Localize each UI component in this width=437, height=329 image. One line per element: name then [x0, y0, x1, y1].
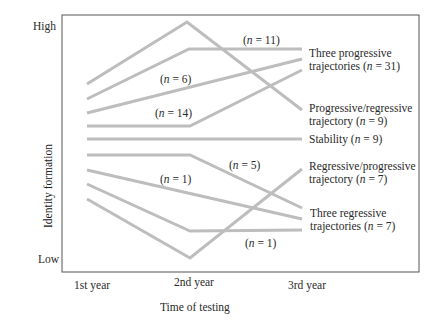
group-label-line: trajectory (n = 7) [309, 173, 416, 186]
group-label-line: Progressive/regressive [309, 102, 412, 115]
label-text: trajectories ( [310, 220, 368, 232]
group-label-line: trajectory (n = 9) [309, 115, 412, 128]
inline-label-n5: (n = 5) [229, 159, 260, 172]
n-value: 31 [385, 60, 397, 72]
n-value: 9 [373, 133, 379, 145]
n-value: 7 [378, 173, 384, 185]
group-label-line: trajectories (n = 31) [309, 60, 400, 73]
group-label-stability: Stability (n = 9) [309, 133, 382, 146]
inline-label-n14: (n = 14) [155, 107, 192, 120]
n-value: 6 [182, 73, 188, 85]
n-value: 14 [177, 107, 189, 119]
inline-label-n1-lower: (n = 1) [245, 237, 276, 250]
line-progressive-n14 [87, 70, 302, 126]
group-label-line: Three progressive [309, 47, 400, 60]
inline-label-n6: (n = 6) [160, 73, 191, 86]
label-text: trajectory ( [309, 115, 360, 127]
group-label-regressive-progressive: Regressive/progressive trajectory (n = 7… [309, 160, 416, 186]
y-tick-low: Low [38, 253, 59, 266]
label-text: trajectories ( [309, 60, 367, 72]
group-label-progressive-regressive: Progressive/regressive trajectory (n = 9… [309, 102, 412, 128]
x-tick-3rd-year: 3rd year [288, 279, 326, 292]
label-text: trajectory ( [309, 173, 360, 185]
group-label-three-progressive: Three progressive trajectories (n = 31) [309, 47, 400, 73]
line-progressive-n11 [87, 49, 302, 99]
n-value: 7 [386, 220, 392, 232]
group-label-line: Stability (n = 9) [309, 133, 382, 146]
line-regressive-n1-low [87, 184, 302, 231]
inline-label-n1-upper: (n = 1) [160, 173, 191, 186]
group-label-line: Regressive/progressive [309, 160, 416, 173]
x-tick-2nd-year: 2nd year [174, 276, 214, 289]
label-text: Stability ( [309, 133, 355, 145]
inline-label-n11: (n = 11) [243, 34, 280, 47]
group-label-line: Three regressive [310, 207, 395, 220]
y-axis-title: Identity formation [42, 126, 54, 246]
trajectory-lines [87, 22, 302, 258]
n-value: 5 [251, 159, 257, 171]
y-tick-high: High [33, 20, 56, 33]
x-axis-title: Time of testing [160, 301, 230, 314]
group-label-line: trajectories (n = 7) [310, 220, 395, 233]
n-value: 9 [378, 115, 384, 127]
x-tick-1st-year: 1st year [74, 279, 110, 292]
n-value: 1 [267, 237, 273, 249]
group-label-three-regressive: Three regressive trajectories (n = 7) [310, 207, 395, 233]
n-value: 1 [182, 173, 188, 185]
n-value: 11 [265, 34, 276, 46]
identity-trajectory-figure: High Low Identity formation 1st year 2nd… [0, 0, 437, 329]
